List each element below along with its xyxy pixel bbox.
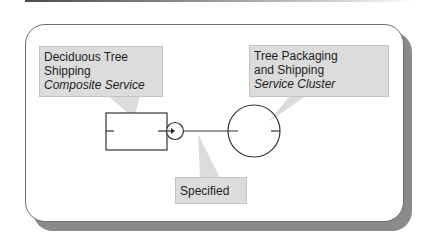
callout-line: and Shipping <box>254 63 384 77</box>
callout-line: Tree Packaging <box>254 49 384 63</box>
callout-tail-cluster <box>268 96 306 122</box>
callout-specified: Specified <box>175 177 247 204</box>
callout-type-label: Composite Service <box>44 78 158 92</box>
diagram-canvas <box>0 0 433 247</box>
composite-service-node[interactable] <box>106 113 167 150</box>
interface-node[interactable] <box>167 123 184 140</box>
callout-tail-specified <box>198 134 220 178</box>
callout-line: Deciduous Tree <box>44 50 158 64</box>
callout-type-label: Service Cluster <box>254 77 384 91</box>
callout-line: Specified <box>180 184 242 198</box>
callout-service-cluster: Tree Packaging and Shipping Service Clus… <box>249 45 389 97</box>
callout-composite-service: Deciduous Tree Shipping Composite Servic… <box>39 46 163 97</box>
callout-line: Shipping <box>44 64 158 78</box>
